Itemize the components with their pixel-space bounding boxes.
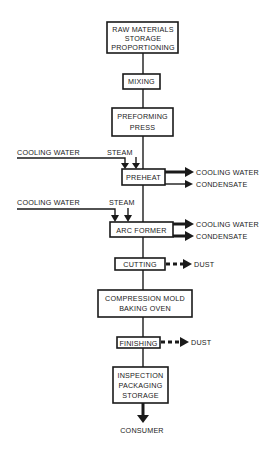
- step-label: PROPORTIONING: [111, 43, 175, 52]
- arrow-down-icon: [132, 163, 140, 169]
- step-label: STORAGE: [122, 391, 158, 400]
- step-preheat: PREHEAT: [122, 169, 165, 185]
- output-label-cooling-water: COOLING WATER: [196, 220, 259, 229]
- step-inspection: INSPECTION PACKAGING STORAGE: [113, 367, 168, 403]
- step-label: PACKAGING: [118, 381, 162, 390]
- step-mixing: MIXING: [123, 74, 160, 89]
- output-label-dust: DUST: [191, 338, 212, 347]
- step-label: MIXING: [128, 77, 155, 86]
- arrow-down-icon: [124, 215, 132, 222]
- step-label: CUTTING: [123, 260, 157, 269]
- process-flow-diagram: RAW MATERIALS STORAGE PROPORTIONING MIXI…: [0, 0, 279, 455]
- input-label-cooling-water: COOLING WATER: [17, 198, 80, 207]
- step-label: PRESS: [130, 123, 155, 132]
- step-finishing: FINISHING: [117, 337, 160, 348]
- step-cutting: CUTTING: [115, 258, 165, 270]
- arrow-right-icon: [180, 337, 189, 347]
- arrow-down-icon: [111, 215, 119, 222]
- cooling-water-line: [17, 209, 115, 216]
- output-label-cooling-water: COOLING WATER: [196, 168, 259, 177]
- output-label-condensate: CONDENSATE: [196, 232, 247, 241]
- step-raw-materials: RAW MATERIALS STORAGE PROPORTIONING: [107, 22, 178, 53]
- step-label: BAKING OVEN: [119, 304, 171, 313]
- arrow-down-icon: [121, 163, 129, 169]
- step-label: RAW MATERIALS: [112, 25, 173, 34]
- arrow-right-icon: [185, 231, 194, 241]
- step-preforming-press: PREFORMING PRESS: [112, 108, 173, 136]
- input-label-cooling-water: COOLING WATER: [17, 148, 80, 157]
- arrow-down-icon: [137, 415, 149, 423]
- step-label: PREHEAT: [126, 173, 161, 182]
- step-label: STORAGE: [125, 34, 161, 43]
- input-label-steam: STEAM: [109, 198, 135, 207]
- step-label: COMPRESSION MOLD: [105, 294, 185, 303]
- output-label-dust: DUST: [194, 260, 215, 269]
- cooling-water-line: [17, 158, 125, 164]
- arrow-right-icon: [185, 167, 194, 177]
- step-compression-mold: COMPRESSION MOLD BAKING OVEN: [98, 290, 192, 317]
- arrow-right-icon: [183, 259, 192, 269]
- step-label: INSPECTION: [118, 371, 164, 380]
- step-label: ARC FORMER: [116, 226, 166, 235]
- arrow-right-icon: [185, 219, 194, 229]
- output-label-condensate: CONDENSATE: [196, 180, 247, 189]
- step-label: PREFORMING: [117, 112, 168, 121]
- arrow-right-icon: [185, 180, 193, 188]
- input-label-steam: STEAM: [107, 148, 133, 157]
- step-label: FINISHING: [119, 339, 157, 348]
- end-label-consumer: CONSUMER: [120, 426, 164, 435]
- step-arc-former: ARC FORMER: [110, 222, 173, 237]
